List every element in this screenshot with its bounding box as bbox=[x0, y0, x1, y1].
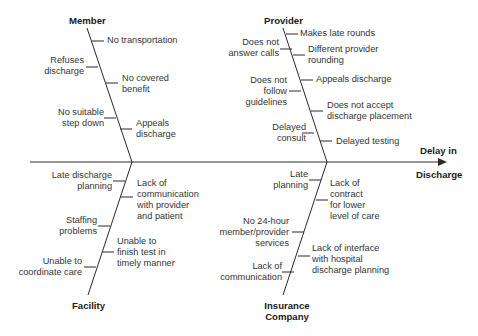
cause-label: Unable tocoordinate care bbox=[19, 256, 82, 278]
cause-label: Lack ofcommunication bbox=[220, 261, 282, 283]
cause-label: Staffingproblems bbox=[59, 215, 97, 237]
cause-label: Makes late rounds bbox=[300, 28, 375, 39]
category-member-label: Member bbox=[69, 15, 106, 26]
cause-label: Unable tofinish test intimely manner bbox=[117, 236, 175, 269]
cause-label: No coveredbenefit bbox=[122, 73, 169, 95]
cause-label: Does notanswer calls bbox=[228, 37, 279, 59]
cause-label: No transportation bbox=[107, 35, 177, 46]
category-provider-label: Provider bbox=[264, 15, 303, 26]
cause-label: Delayedconsult bbox=[272, 122, 306, 144]
cause-label: No suitablestep down bbox=[58, 107, 104, 129]
cause-label: Appeals discharge bbox=[316, 74, 392, 85]
arrow-head-icon bbox=[438, 158, 447, 166]
cause-label: Delayed testing bbox=[336, 136, 399, 147]
effect-label-line2: Discharge bbox=[416, 169, 462, 180]
cause-label: Lack ofcommunicationwith providerand pat… bbox=[137, 178, 199, 222]
cause-label: Does not acceptdischarge placement bbox=[327, 100, 412, 122]
cause-label: Refusesdischarge bbox=[44, 55, 84, 77]
cause-label: Different providerrounding bbox=[308, 44, 378, 66]
cause-label: Late dischargeplanning bbox=[52, 170, 112, 192]
cause-label: Does notfollowguidelines bbox=[246, 75, 287, 108]
cause-label: No 24-hourmember/providerservices bbox=[220, 216, 289, 249]
cause-label: Lack ofcontractfor lowerlevel of care bbox=[330, 178, 380, 222]
category-insurance-label: InsuranceCompany bbox=[261, 300, 313, 322]
member-bone bbox=[87, 28, 132, 162]
effect-label-line1: Delay in bbox=[420, 145, 457, 156]
cause-label: Lateplanning bbox=[273, 169, 308, 191]
cause-label: Appealsdischarge bbox=[136, 118, 176, 140]
cause-label: Lack of interfacewith hospitaldischarge … bbox=[312, 243, 389, 276]
category-facility-label: Facility bbox=[72, 300, 105, 311]
